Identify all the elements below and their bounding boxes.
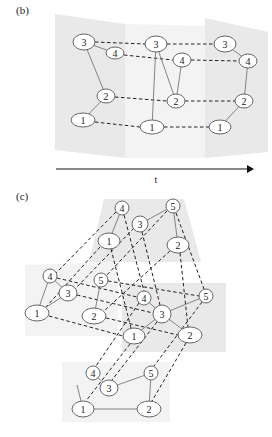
node-label: 5: [99, 275, 104, 286]
graph-node-4: 4: [115, 201, 129, 215]
node-label: 5: [204, 291, 209, 302]
graph-node-3: 3: [73, 34, 95, 50]
graph-node-5: 5: [199, 289, 213, 303]
node-label: 4: [48, 271, 53, 282]
graph-node-2: 2: [167, 237, 189, 253]
node-label: 5: [149, 368, 154, 379]
graph-node-5: 5: [144, 366, 158, 380]
graph-node-2: 2: [235, 94, 253, 108]
node-label: 3: [160, 309, 165, 320]
node-label: 1: [150, 122, 155, 133]
graph-node-1: 1: [140, 120, 164, 134]
graph-node-2: 2: [167, 94, 185, 108]
node-label: 1: [107, 236, 112, 247]
diagram-canvas: t (b) (c) 123412341234123451234512345123…: [0, 0, 272, 437]
node-label: 3: [138, 219, 143, 230]
node-label: 2: [92, 311, 97, 322]
graph-node-1: 1: [98, 233, 120, 249]
time-slice-plane-3: [205, 18, 268, 158]
node-label: 4: [120, 203, 125, 214]
node-label: 4: [246, 56, 251, 67]
graph-node-4: 4: [239, 54, 257, 68]
node-label: 2: [176, 240, 181, 251]
node-label: 4: [180, 55, 185, 66]
arrow-head-icon: [247, 165, 254, 173]
graph-node-3: 3: [59, 285, 77, 301]
graph-node-4: 4: [173, 53, 191, 67]
node-label: 2: [147, 404, 152, 415]
node-label: 3: [82, 37, 87, 48]
panel-c-planes: [25, 199, 226, 422]
node-label: 1: [132, 331, 137, 342]
node-label: 3: [154, 39, 159, 50]
graph-node-3: 3: [145, 36, 167, 52]
graph-node-1: 1: [71, 113, 95, 127]
node-label: 4: [91, 368, 96, 379]
graph-node-4: 4: [106, 47, 124, 59]
node-label: 4: [113, 48, 118, 59]
graph-node-3: 3: [153, 305, 171, 323]
node-label: 3: [107, 383, 112, 394]
node-label: 3: [66, 288, 71, 299]
node-label: 2: [104, 91, 109, 102]
node-label: 2: [188, 330, 193, 341]
node-label: 3: [223, 39, 228, 50]
node-label: 5: [171, 201, 176, 212]
panel-c-label: (c): [16, 190, 29, 203]
graph-node-2: 2: [178, 327, 202, 343]
graph-node-2: 2: [97, 89, 115, 103]
graph-node-1: 1: [72, 401, 94, 417]
graph-node-4: 4: [137, 291, 151, 305]
graph-node-4: 4: [86, 366, 100, 380]
node-label: 2: [242, 96, 247, 107]
node-label: 1: [35, 308, 40, 319]
node-label: 1: [81, 404, 86, 415]
panel-b-label: (b): [16, 4, 29, 17]
graph-node-4: 4: [43, 269, 57, 283]
graph-node-3: 3: [132, 216, 148, 232]
graph-node-1: 1: [123, 328, 145, 344]
graph-node-1: 1: [209, 120, 231, 134]
node-label: 4: [142, 293, 147, 304]
graph-node-3: 3: [100, 380, 118, 396]
graph-node-5: 5: [166, 199, 180, 213]
time-axis: t: [56, 165, 254, 185]
graph-node-2: 2: [82, 308, 106, 324]
node-label: 1: [81, 115, 86, 126]
node-label: 1: [218, 122, 223, 133]
graph-node-2: 2: [137, 401, 161, 417]
node-label: 2: [174, 96, 179, 107]
graph-node-1: 1: [25, 305, 49, 321]
time-axis-label: t: [155, 174, 158, 185]
graph-node-5: 5: [94, 273, 108, 287]
graph-node-3: 3: [214, 36, 236, 52]
